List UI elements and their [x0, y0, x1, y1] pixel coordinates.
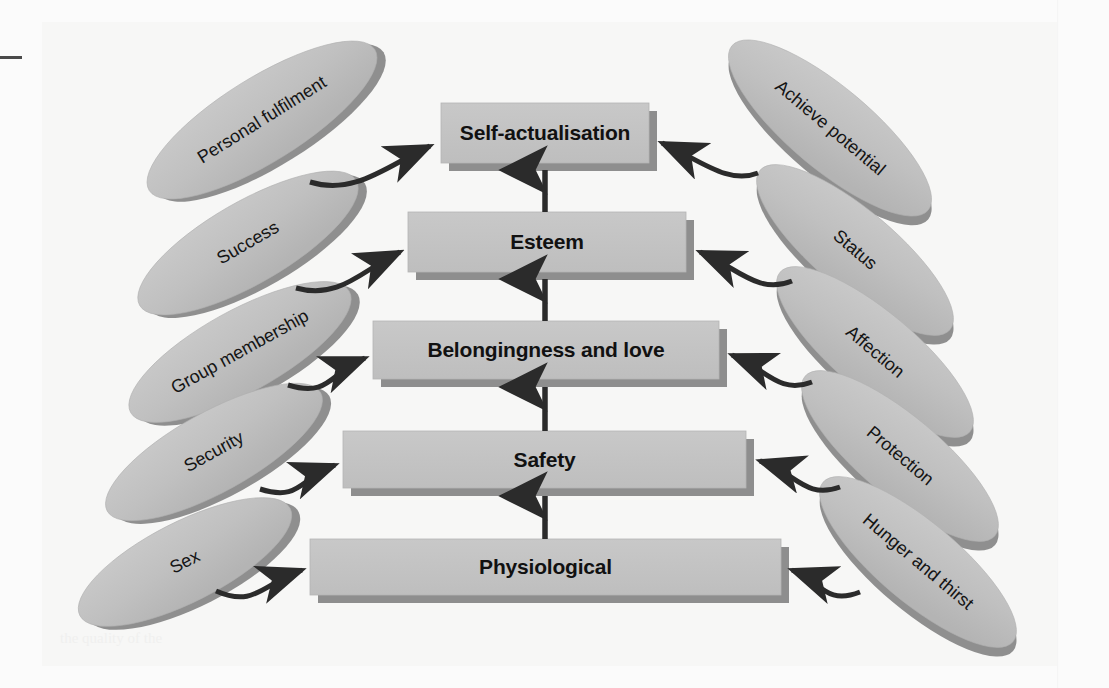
- box-label-belongingness-and-love: Belongingness and love: [427, 338, 664, 362]
- curve-affection-to-belongingness: [732, 355, 812, 385]
- box-label-physiological: Physiological: [479, 555, 612, 579]
- curve-hunger-and-thirst-to-physiological: [792, 570, 860, 596]
- box-label-self-actualisation: Self-actualisation: [460, 121, 630, 145]
- box-label-esteem: Esteem: [510, 230, 584, 254]
- maslow-hierarchy-figure: Self-actualisationEsteemBelongingness an…: [0, 0, 1109, 688]
- box-label-safety: Safety: [514, 448, 576, 472]
- bleed-text: the quality of the: [60, 630, 162, 647]
- curve-achieve-potential-to-self-actualisation: [662, 143, 758, 176]
